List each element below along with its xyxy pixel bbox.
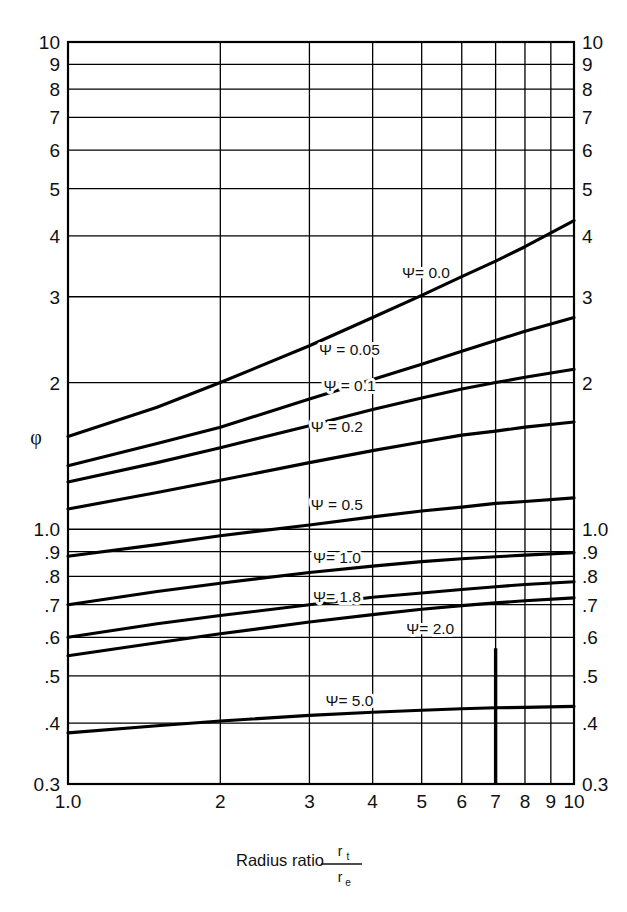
x-tick-label: 5 xyxy=(416,791,427,812)
y-tick-label-left: 9 xyxy=(49,54,60,75)
x-tick-label: 3 xyxy=(304,791,315,812)
y-tick-label-left: .6 xyxy=(44,627,60,648)
y-tick-label-right: 10 xyxy=(582,32,603,53)
y-tick-label-right: 8 xyxy=(582,79,593,100)
curve-label: Ψ= 0.0 xyxy=(402,264,450,281)
y-tick-label-right: 9 xyxy=(582,54,593,75)
curve-label: Ψ = 0.2 xyxy=(311,418,363,435)
y-tick-label-right: .4 xyxy=(582,713,598,734)
x-tick-label: 7 xyxy=(490,791,501,812)
x-axis-title-denominator-subscript: e xyxy=(345,877,351,888)
y-tick-label-right: 4 xyxy=(582,226,593,247)
curve-label: Ψ= 1.8 xyxy=(313,588,361,605)
x-axis-title-text: Radius ratio xyxy=(236,851,324,869)
y-tick-label-left: 3 xyxy=(49,287,60,308)
y-tick-label-right: 1.0 xyxy=(582,519,608,540)
y-tick-label-left: 1.0 xyxy=(34,519,60,540)
y-tick-label-left: 5 xyxy=(49,179,60,200)
y-tick-label-right: .5 xyxy=(582,666,598,687)
y-tick-label-left: .7 xyxy=(44,595,60,616)
y-tick-label-left: 0.3 xyxy=(34,774,60,795)
y-tick-label-left: 8 xyxy=(49,79,60,100)
y-tick-label-right: .7 xyxy=(582,595,598,616)
y-tick-label-right: 0.3 xyxy=(582,774,608,795)
curve-label: Ψ= 1.0 xyxy=(313,549,361,566)
y-tick-label-right: 6 xyxy=(582,140,593,161)
x-tick-label: 9 xyxy=(546,791,557,812)
y-tick-label-left: 10 xyxy=(39,32,60,53)
y-tick-label-right: 2 xyxy=(582,373,593,394)
y-tick-label-left: 2 xyxy=(49,373,60,394)
y-tick-label-right: 5 xyxy=(582,179,593,200)
x-axis-title-numerator: r xyxy=(338,843,343,859)
chart-background xyxy=(0,0,627,912)
y-tick-label-right: .6 xyxy=(582,627,598,648)
y-axis-title: φ xyxy=(30,426,42,449)
y-tick-label-right: .8 xyxy=(582,566,598,587)
y-tick-label-left: .9 xyxy=(44,542,60,563)
y-tick-label-left: 6 xyxy=(49,140,60,161)
x-tick-label: 2 xyxy=(215,791,226,812)
curve-label: Ψ= 2.0 xyxy=(406,620,454,637)
curve-label: Ψ = 0.5 xyxy=(311,496,363,513)
y-tick-label-right: 7 xyxy=(582,107,593,128)
y-tick-label-left: .5 xyxy=(44,666,60,687)
x-axis-title-denominator: r xyxy=(338,869,343,885)
y-tick-label-left: 4 xyxy=(49,226,60,247)
curve-label: Ψ= 5.0 xyxy=(326,692,374,709)
curve-label: Ψ = 0.1 xyxy=(323,377,375,394)
y-tick-label-right: 3 xyxy=(582,287,593,308)
chart-canvas: 1.02345678910 10987654321.0.9.8.7.6.5.40… xyxy=(0,0,627,912)
x-tick-label: 6 xyxy=(456,791,467,812)
y-tick-label-right: .9 xyxy=(582,542,598,563)
curve-label: Ψ = 0.05 xyxy=(319,341,380,358)
y-tick-label-left: 7 xyxy=(49,107,60,128)
y-tick-label-left: .8 xyxy=(44,566,60,587)
x-axis-title-numerator-subscript: t xyxy=(347,851,350,862)
y-tick-label-left: .4 xyxy=(44,713,60,734)
chart-figure: 1.02345678910 10987654321.0.9.8.7.6.5.40… xyxy=(0,0,627,912)
x-tick-label: 4 xyxy=(367,791,378,812)
x-tick-label: 8 xyxy=(520,791,531,812)
